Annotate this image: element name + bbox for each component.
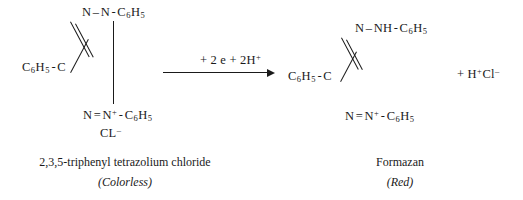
product-name-caption: Formazan — [330, 155, 470, 170]
product-top-nh: NH — [374, 21, 392, 35]
reactant-bottom-phenyl-h: H — [138, 108, 147, 122]
product-left-phenyl-c: C — [288, 69, 297, 83]
arrow-reagent-text: + 2 e + 2H — [200, 53, 256, 67]
reactant-double-bond-line-b — [75, 23, 94, 57]
reactant-counterion: CL– — [100, 126, 121, 139]
reactant-left-phenyl-h: H — [36, 60, 45, 74]
reactant-top-n2: N — [101, 5, 110, 19]
product-bottom-bond: = — [354, 110, 364, 123]
reactant-top-phenyl-sub2: 5 — [140, 10, 145, 20]
reactant-left-carbon: C — [57, 60, 66, 74]
arrow-reagent-label: + 2 e + 2H+ — [200, 53, 261, 66]
reaction-arrow-shaft — [163, 72, 268, 73]
reactant-top-n1: N — [82, 5, 91, 19]
byproduct-plus-h: + H — [457, 67, 477, 81]
reactant-state-caption: (Colorless) — [0, 175, 250, 190]
reactant-single-bond-line — [70, 39, 89, 73]
product-bottom-dash: - — [379, 110, 386, 123]
reactant-bottom-phenyl-sub2: 5 — [148, 113, 153, 123]
product-state-caption: (Red) — [330, 175, 470, 190]
reactant-ring-closure-bond — [113, 21, 114, 104]
product-top-phenyl-h: H — [413, 21, 422, 35]
counterion-charge: – — [116, 125, 121, 135]
product-left-fragment: C6H5-C — [288, 70, 332, 84]
product-bottom-phenyl-h: H — [400, 109, 409, 123]
product-bottom-fragment: N=N+-C6H5 — [345, 109, 415, 123]
product-left-phenyl-h: H — [302, 69, 311, 83]
reactant-name-caption: 2,3,5-triphenyl tetrazolium chloride — [0, 155, 250, 170]
product-bottom-phenyl-c: C — [387, 109, 396, 123]
reaction-scheme-figure: N–N-C6H5 C6H5-C N=N+-C6H5 CL– 2,3,5-trip… — [0, 0, 523, 200]
reaction-arrow-head-icon — [267, 69, 275, 77]
reactant-top-fragment: N–N-C6H5 — [82, 6, 145, 20]
product-top-bond: – — [364, 22, 373, 35]
byproduct-cl: Cl — [482, 67, 494, 81]
product-bottom-phenyl-sub2: 5 — [410, 114, 415, 124]
product-top-fragment: N–NH-C6H5 — [355, 22, 427, 36]
arrow-reagent-charge: + — [256, 52, 262, 62]
product-single-bond-line — [340, 51, 357, 82]
reactant-top-bond: – — [91, 6, 100, 19]
reactant-left-fragment: C6H5-C — [22, 61, 66, 75]
product-top-dash: - — [392, 22, 399, 35]
reactant-bottom-n1: N — [83, 108, 92, 122]
product-top-phenyl-sub2: 5 — [422, 26, 427, 36]
reactant-left-phenyl-c: C — [22, 60, 31, 74]
byproduct-cl-charge: – — [495, 66, 500, 76]
reactant-bottom-n2: N — [102, 108, 111, 122]
reactant-bottom-phenyl-c: C — [125, 108, 134, 122]
product-bottom-n2: N — [364, 109, 373, 123]
product-top-phenyl-c: C — [400, 21, 409, 35]
reactant-top-phenyl-h: H — [131, 5, 140, 19]
product-left-carbon: C — [323, 69, 332, 83]
product-top-n1: N — [355, 21, 364, 35]
reactant-bottom-fragment: N=N+-C6H5 — [83, 108, 153, 122]
counterion-label: CL — [100, 126, 116, 140]
reactant-top-phenyl-c: C — [117, 5, 126, 19]
byproduct-fragment: + H+Cl– — [457, 67, 500, 80]
reactant-bottom-bond: = — [92, 109, 102, 122]
product-bottom-n1: N — [345, 109, 354, 123]
reactant-bottom-dash: - — [117, 109, 124, 122]
